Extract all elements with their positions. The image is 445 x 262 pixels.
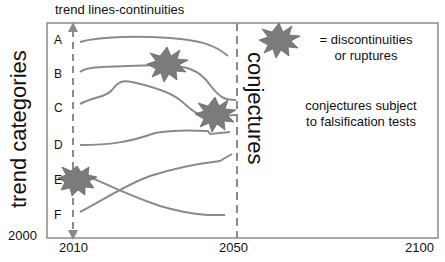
chart-title: trend lines-continuities xyxy=(55,2,184,17)
x-tick-2050: 2050 xyxy=(219,240,248,255)
legend-text: = discontinuities or ruptures xyxy=(296,32,436,64)
x-tick-2100: 2100 xyxy=(405,240,434,255)
x-tick-2000: 2000 xyxy=(8,228,37,243)
category-label-b: B xyxy=(54,67,62,81)
falsification-note: conjectures subject to falsification tes… xyxy=(286,98,436,130)
trend-line-a xyxy=(80,37,228,56)
category-label-d: D xyxy=(54,138,63,152)
x-tick-2010: 2010 xyxy=(59,240,88,255)
category-label-f: F xyxy=(54,208,61,222)
category-label-a: A xyxy=(54,33,62,47)
legend-line-2: or ruptures xyxy=(296,48,436,64)
rupture-starburst-icon-e xyxy=(58,166,97,196)
conjectures-label: conjectures xyxy=(242,52,268,165)
y-axis-title: trend categories xyxy=(6,50,32,208)
note-line-2: to falsification tests xyxy=(286,114,436,130)
trend-line-d xyxy=(80,130,230,145)
rupture-starburst-icon-b xyxy=(147,47,188,82)
category-label-c: C xyxy=(54,101,63,115)
note-line-1: conjectures subject xyxy=(286,98,436,114)
category-label-e: E xyxy=(54,173,62,187)
legend-line-1: = discontinuities xyxy=(296,32,436,48)
